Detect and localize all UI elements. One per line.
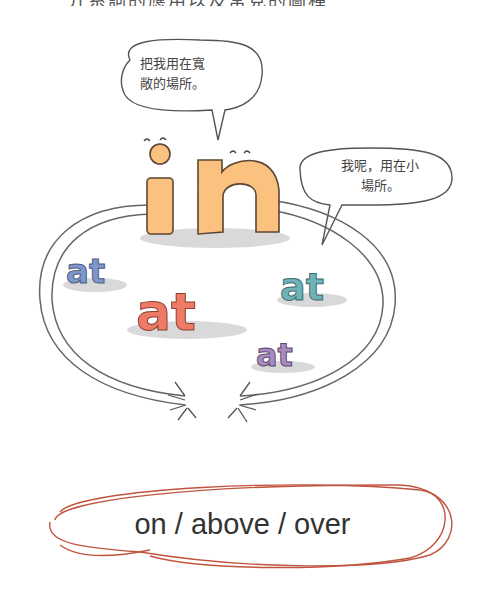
bubble-in-line-1: 把我用在寬 xyxy=(140,54,205,74)
bubble-at-text: 我呢，用在小 場所。 xyxy=(320,156,440,196)
bubble-at-line-2: 場所。 xyxy=(320,176,440,196)
word-in xyxy=(147,144,279,234)
bubble-in-text: 把我用在寬 敞的場所。 xyxy=(140,54,205,94)
word-at-blue: at xyxy=(66,251,105,291)
word-at-purple: at xyxy=(256,336,293,374)
word-at-teal: at xyxy=(280,265,324,309)
hand-icons xyxy=(168,382,258,422)
word-at-red: at xyxy=(136,282,196,342)
bubble-at-line-1: 我呢，用在小 xyxy=(320,156,440,176)
phrase-text: on / above / over xyxy=(0,508,485,541)
bubble-in-line-2: 敞的場所。 xyxy=(140,74,205,94)
